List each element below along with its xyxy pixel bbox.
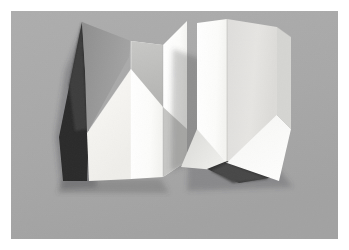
- scene-vector: [11, 11, 338, 239]
- film-grain-overlay: [11, 11, 338, 239]
- photograph-frame: two folded white paper sculptures on a g…: [0, 0, 349, 250]
- photograph-canvas: [11, 11, 338, 239]
